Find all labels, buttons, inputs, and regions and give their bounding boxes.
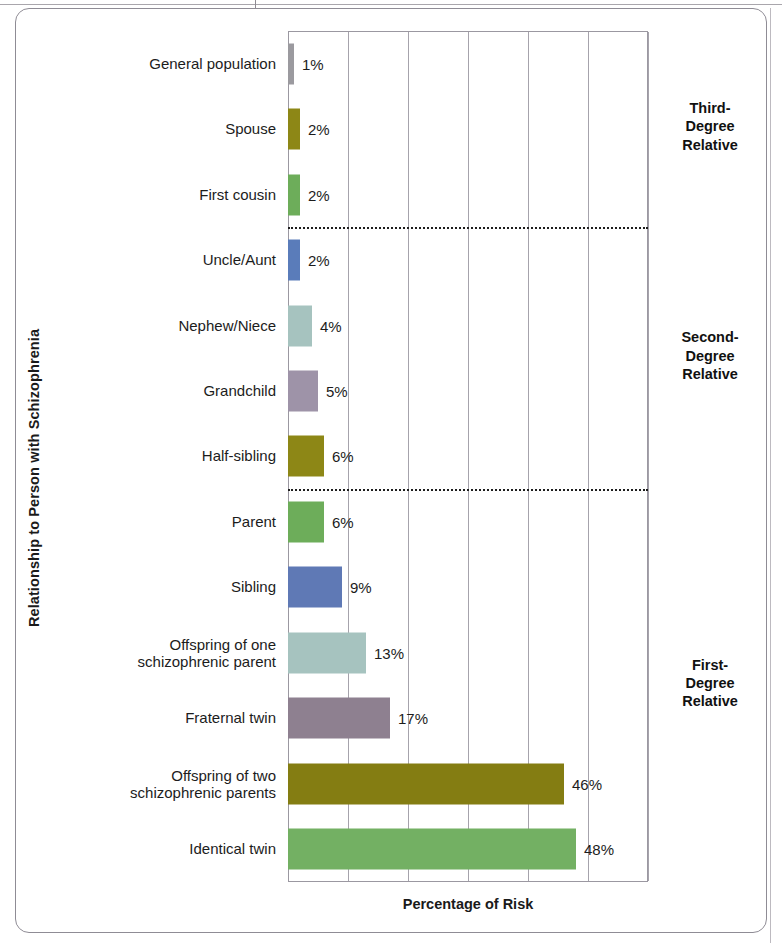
bar-row: Identical twin48% [288, 817, 768, 882]
bar-value-label: 9% [350, 579, 372, 596]
bar-category-label: Grandchild [26, 382, 276, 399]
bar-row: Offspring of two schizophrenic parents46… [288, 751, 768, 816]
bar-category-label: General population [26, 55, 276, 72]
bar-category-label: Offspring of two schizophrenic parents [26, 766, 276, 801]
bar-category-label: First cousin [26, 186, 276, 203]
bar-category-label: Identical twin [26, 841, 276, 858]
bar-value-label: 1% [302, 55, 324, 72]
bar [288, 109, 300, 150]
bar-value-label: 2% [308, 121, 330, 138]
bar-row: Uncle/Aunt2% [288, 227, 768, 292]
bar-value-label: 48% [584, 841, 614, 858]
bar-category-label: Half-sibling [26, 448, 276, 465]
bar-row: General population1% [288, 31, 768, 96]
bar-value-label: 6% [332, 513, 354, 530]
bar-value-label: 46% [572, 775, 602, 792]
bar-category-label: Nephew/Niece [26, 317, 276, 334]
bar [288, 370, 318, 411]
group-label: Third- Degree Relative [656, 99, 764, 154]
group-divider [288, 489, 648, 491]
bar-value-label: 2% [308, 252, 330, 269]
bar [288, 240, 300, 281]
bar-category-label: Parent [26, 513, 276, 530]
bar-value-label: 6% [332, 448, 354, 465]
bar [288, 43, 294, 84]
group-divider [288, 227, 648, 229]
bar-category-label: Uncle/Aunt [26, 251, 276, 268]
bar-value-label: 13% [374, 644, 404, 661]
bar-category-label: Spouse [26, 120, 276, 137]
bar-category-label: Offspring of one schizophrenic parent [26, 635, 276, 670]
bar [288, 763, 564, 804]
bar-category-label: Fraternal twin [26, 710, 276, 727]
bar-row: Sibling9% [288, 555, 768, 620]
bar-row: First cousin2% [288, 162, 768, 227]
bar [288, 567, 342, 608]
bar-row: Half-sibling6% [288, 424, 768, 489]
bar-category-label: Sibling [26, 579, 276, 596]
bar [288, 436, 324, 477]
bar-value-label: 2% [308, 186, 330, 203]
bar [288, 174, 300, 215]
group-label: First- Degree Relative [656, 656, 764, 711]
bar [288, 501, 324, 542]
x-axis-title: Percentage of Risk [288, 896, 648, 912]
page-right-rule [770, 8, 771, 943]
bar-value-label: 17% [398, 710, 428, 727]
bar [288, 632, 366, 673]
bar [288, 305, 312, 346]
bar-value-label: 5% [326, 382, 348, 399]
bar-row: Parent6% [288, 489, 768, 554]
bar-value-label: 4% [320, 317, 342, 334]
page-top-rule [0, 4, 782, 5]
bar [288, 698, 390, 739]
group-label: Second- Degree Relative [656, 328, 764, 383]
bar [288, 829, 576, 870]
